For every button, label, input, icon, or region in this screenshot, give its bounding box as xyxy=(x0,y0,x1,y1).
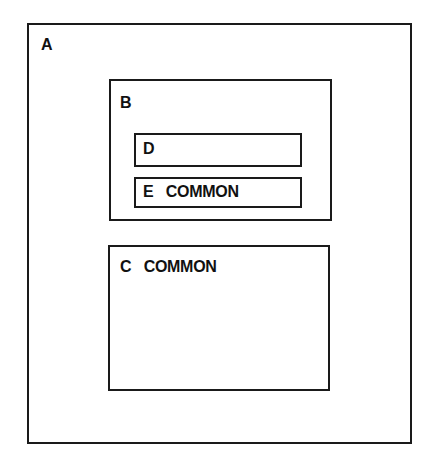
box-a-label: A xyxy=(41,37,52,53)
box-c-common: C COMMON xyxy=(108,245,330,391)
box-d-label: D xyxy=(143,141,154,157)
box-b-label: B xyxy=(120,95,131,111)
box-c-label: C COMMON xyxy=(120,259,217,275)
box-e-label: E COMMON xyxy=(143,184,239,200)
box-e-common: E COMMON xyxy=(134,177,302,208)
box-d: D xyxy=(134,133,302,167)
